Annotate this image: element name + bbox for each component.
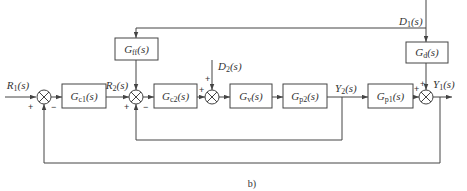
block-gc1-label: Gc1(s)	[70, 90, 97, 104]
r1-label: R1(s)	[6, 79, 30, 93]
sum2-plus-sign: +	[124, 102, 129, 112]
sum4-plus-sign: +	[414, 84, 419, 94]
block-gd-label: Gd(s)	[415, 46, 439, 60]
outer-feedback-line	[44, 97, 440, 163]
block-diagram: Gc1(s) Gc2(s) Gv(s) Gp2(s) Gp1(s) Gff(s)…	[0, 0, 467, 191]
summing-junction-2	[129, 90, 143, 104]
sum1-plus-sign: +	[28, 102, 33, 112]
sum3-plus-sign: +	[199, 85, 204, 95]
block-gp2-label: Gp2(s)	[291, 90, 319, 104]
block-gff-label: Gff(s)	[124, 43, 149, 57]
feedforward-line	[136, 28, 426, 38]
d1-label: D1(s)	[398, 15, 423, 29]
inner-feedback-line	[136, 97, 342, 140]
summing-junction-1	[37, 90, 51, 104]
figure-caption: b)	[248, 178, 256, 190]
y2-label: Y2(s)	[335, 82, 357, 96]
sum4-dist-plus-sign: +	[420, 79, 425, 89]
sum3-dist-plus-sign: +	[205, 74, 210, 84]
r2-label: R2(s)	[105, 79, 129, 93]
summing-junction-4	[419, 90, 433, 104]
summing-junction-3	[205, 90, 219, 104]
y1-label: Y1(s)	[433, 78, 455, 92]
sum1-minus-sign: −	[51, 102, 56, 112]
block-gv-label: Gv(s)	[239, 90, 263, 104]
block-gc2-label: Gc2(s)	[162, 90, 189, 104]
block-gp1-label: Gp1(s)	[377, 90, 405, 104]
d2-label: D2(s)	[217, 60, 242, 74]
sum2-minus-sign: −	[143, 102, 148, 112]
